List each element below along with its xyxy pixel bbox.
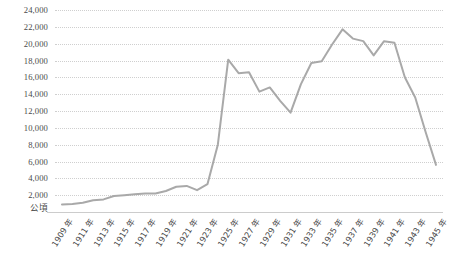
x-axis-tick-label: 1945 年 [424, 217, 448, 248]
y-axis: 24,00022,00020,00018,00016,00014,00012,0… [0, 0, 52, 220]
series-line-chart [55, 10, 443, 212]
y-axis-tick-label: 2,000 [28, 191, 48, 200]
y-axis-tick-label: 6,000 [28, 157, 48, 166]
y-axis-tick-label: 4,000 [28, 174, 48, 183]
y-axis-tick-label: 10,000 [24, 123, 48, 132]
y-axis-tick-label: 22,000 [24, 22, 48, 31]
plot-area [55, 10, 443, 212]
x-axis: 1909 年1911 年1913 年1915 年1917 年1919 年1921… [0, 213, 445, 278]
y-axis-tick-label: 8,000 [28, 140, 48, 149]
y-axis-tick-label: 14,000 [24, 90, 48, 99]
y-axis-tick-label: 24,000 [24, 6, 48, 15]
y-axis-tick-label: 20,000 [24, 39, 48, 48]
series-line-planting-area [62, 29, 436, 204]
y-axis-unit-label: 公頃 [30, 204, 48, 213]
y-axis-tick-label: 18,000 [24, 56, 48, 65]
y-axis-tick-label: 12,000 [24, 107, 48, 116]
y-axis-tick-label: 16,000 [24, 73, 48, 82]
